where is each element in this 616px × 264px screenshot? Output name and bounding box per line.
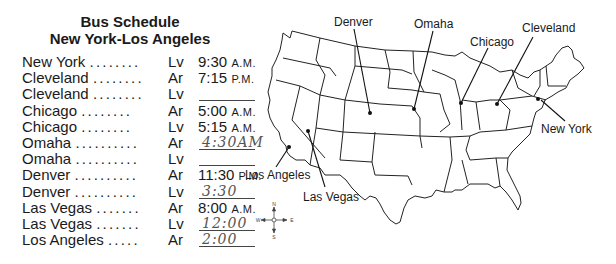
city-dots (287, 97, 540, 149)
svg-text:E: E (290, 217, 294, 223)
label-cleveland: Cleveland (522, 21, 575, 35)
label-los-angeles: Los Angeles (245, 168, 310, 182)
us-map: N S E W (0, 0, 616, 264)
label-new-york: New York (541, 122, 592, 136)
compass-rose-icon (261, 207, 287, 233)
label-chicago: Chicago (470, 35, 514, 49)
label-omaha: Omaha (414, 17, 453, 31)
label-denver: Denver (334, 15, 373, 29)
svg-text:S: S (272, 234, 276, 240)
label-las-vegas: Las Vegas (303, 190, 359, 204)
new-york-dot (536, 97, 540, 101)
leader-lines (276, 29, 565, 187)
svg-text:N: N (272, 201, 276, 207)
svg-text:W: W (256, 217, 261, 223)
